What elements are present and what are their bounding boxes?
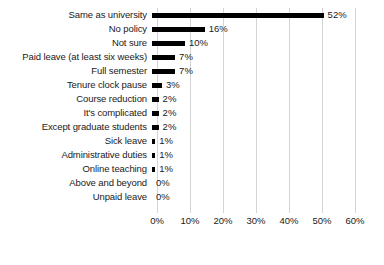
bar xyxy=(152,139,155,144)
bar-row: No policy16% xyxy=(0,22,384,36)
bar-track: 2% xyxy=(152,106,384,120)
category-label: Full semester xyxy=(0,64,152,78)
bar-track: 7% xyxy=(152,64,384,78)
category-label: Administrative duties xyxy=(0,148,152,162)
bar-row: Sick leave1% xyxy=(0,134,384,148)
bar-value-label: 0% xyxy=(156,190,170,204)
x-tick-label: 30% xyxy=(246,215,265,226)
bar-value-label: 3% xyxy=(166,78,180,92)
bar-row: Administrative duties1% xyxy=(0,148,384,162)
bar-value-label: 1% xyxy=(159,162,173,176)
bar-track: 1% xyxy=(152,134,384,148)
bar-chart: Same as university52%No policy16%Not sur… xyxy=(0,0,384,265)
bar-value-label: 52% xyxy=(328,8,347,22)
category-label: Not sure xyxy=(0,36,152,50)
bar xyxy=(152,167,155,172)
bar-row: Same as university52% xyxy=(0,8,384,22)
category-label: Except graduate students xyxy=(0,120,152,134)
bar-value-label: 0% xyxy=(156,176,170,190)
category-label: Above and beyond xyxy=(0,176,152,190)
category-label: Unpaid leave xyxy=(0,190,152,204)
bar-value-label: 1% xyxy=(159,148,173,162)
bar-row: Full semester7% xyxy=(0,64,384,78)
bar-track: 3% xyxy=(152,78,384,92)
bar-row: Except graduate students2% xyxy=(0,120,384,134)
bar-value-label: 7% xyxy=(179,64,193,78)
category-label: It's complicated xyxy=(0,106,152,120)
x-tick-label: 20% xyxy=(213,215,232,226)
x-tick-label: 0% xyxy=(150,215,164,226)
bar xyxy=(152,97,159,102)
bar-track: 10% xyxy=(152,36,384,50)
bar-track: 0% xyxy=(152,176,384,190)
bar-row: Unpaid leave0% xyxy=(0,190,384,204)
bar-value-label: 7% xyxy=(179,50,193,64)
category-label: Course reduction xyxy=(0,92,152,106)
bar xyxy=(152,55,175,60)
bar-row: Course reduction2% xyxy=(0,92,384,106)
bar xyxy=(152,111,159,116)
bar-track: 52% xyxy=(152,8,384,22)
category-label: Tenure clock pause xyxy=(0,78,152,92)
bar-track: 1% xyxy=(152,162,384,176)
bar xyxy=(152,27,205,32)
x-tick-label: 60% xyxy=(345,215,364,226)
bar xyxy=(152,125,159,130)
category-label: Same as university xyxy=(0,8,152,22)
x-axis: 0%10%20%30%40%50%60% xyxy=(157,215,355,231)
bar-value-label: 2% xyxy=(163,92,177,106)
bar xyxy=(152,13,324,18)
category-label: No policy xyxy=(0,22,152,36)
bar-row: Tenure clock pause3% xyxy=(0,78,384,92)
bar-track: 2% xyxy=(152,120,384,134)
bar xyxy=(152,69,175,74)
bar xyxy=(152,83,162,88)
bar xyxy=(152,153,155,158)
bar-row: Online teaching1% xyxy=(0,162,384,176)
bar-row: Above and beyond0% xyxy=(0,176,384,190)
bar-track: 0% xyxy=(152,190,384,204)
bar-track: 16% xyxy=(152,22,384,36)
bar-rows: Same as university52%No policy16%Not sur… xyxy=(0,8,384,204)
bar-row: It's complicated2% xyxy=(0,106,384,120)
category-label: Online teaching xyxy=(0,162,152,176)
bar-track: 2% xyxy=(152,92,384,106)
bar-value-label: 1% xyxy=(159,134,173,148)
bar-row: Not sure10% xyxy=(0,36,384,50)
bar-track: 1% xyxy=(152,148,384,162)
x-tick-label: 10% xyxy=(180,215,199,226)
bar xyxy=(152,41,185,46)
bar-value-label: 2% xyxy=(163,120,177,134)
bar-row: Paid leave (at least six weeks)7% xyxy=(0,50,384,64)
x-tick-label: 50% xyxy=(312,215,331,226)
bar-value-label: 10% xyxy=(189,36,208,50)
category-label: Paid leave (at least six weeks) xyxy=(0,50,152,64)
x-tick-label: 40% xyxy=(279,215,298,226)
bar-value-label: 16% xyxy=(209,22,228,36)
category-label: Sick leave xyxy=(0,134,152,148)
bar-value-label: 2% xyxy=(163,106,177,120)
bar-track: 7% xyxy=(152,50,384,64)
